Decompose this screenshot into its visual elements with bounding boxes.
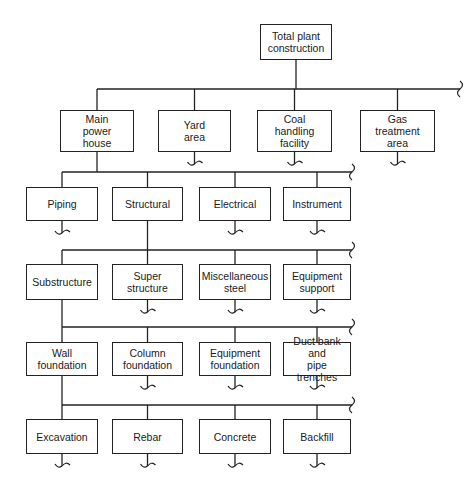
node-label-line: Column [123, 347, 172, 359]
node-label-line: Gas [375, 113, 419, 125]
node-label-line: foundation [37, 359, 86, 371]
node-label-line: house [83, 137, 112, 149]
node-label: Yardarea [184, 119, 205, 143]
node-label: Coalhandlingfacility [275, 113, 315, 149]
wbs-node-excavation: Excavation [26, 419, 98, 454]
wbs-node-backfill: Backfill [283, 419, 351, 454]
node-label-line: support [292, 282, 342, 294]
node-label: Total plantconstruction [268, 30, 325, 54]
node-label-line: pipe trenches [286, 359, 348, 383]
node-label-line: Concrete [214, 431, 257, 443]
node-label-line: Rebar [133, 431, 162, 443]
wbs-node-super-structure: Superstructure [112, 264, 183, 300]
node-label-line: Main [83, 113, 112, 125]
node-label-line: Miscellaneous [202, 270, 269, 282]
wbs-node-equipment-support: Equipmentsupport [283, 264, 351, 300]
node-label-line: foundation [123, 359, 172, 371]
node-label-line: Duct bank and [286, 335, 348, 359]
node-label-line: Super [127, 270, 168, 282]
wbs-node-total: Total plantconstruction [260, 24, 332, 60]
node-label: Mainpowerhouse [83, 113, 112, 149]
node-label: Equipmentsupport [292, 270, 342, 294]
node-label: Excavation [36, 431, 87, 443]
node-label: Wallfoundation [37, 347, 86, 371]
node-label-line: Equipment [292, 270, 342, 282]
node-label-line: structure [127, 282, 168, 294]
node-label-line: area [184, 131, 205, 143]
node-label: Piping [47, 198, 76, 210]
node-label-line: handling [275, 125, 315, 137]
wbs-node-equipment-foundation: Equipmentfoundation [199, 342, 271, 376]
node-label-line: treatment [375, 125, 419, 137]
wbs-node-main-power-house: Mainpowerhouse [60, 110, 134, 152]
node-label: Substructure [32, 276, 92, 288]
wbs-node-coal-handling-facility: Coalhandlingfacility [257, 110, 332, 152]
node-label-line: Wall [37, 347, 86, 359]
node-label-line: Equipment [210, 347, 260, 359]
node-label: Gastreatmentarea [375, 113, 419, 149]
node-label: Instrument [292, 198, 342, 210]
wbs-node-miscellaneous-steel: Miscellaneoussteel [199, 264, 271, 300]
node-label-line: Piping [47, 198, 76, 210]
node-label-line: Yard [184, 119, 205, 131]
node-label: Equipmentfoundation [210, 347, 260, 371]
wbs-node-concrete: Concrete [199, 419, 271, 454]
node-label-line: steel [202, 282, 269, 294]
wbs-node-gas-treatment-area: Gastreatmentarea [360, 110, 435, 152]
node-label-line: Backfill [300, 431, 333, 443]
node-label: Rebar [133, 431, 162, 443]
node-label-line: Excavation [36, 431, 87, 443]
node-label: Miscellaneoussteel [202, 270, 269, 294]
node-label: Superstructure [127, 270, 168, 294]
node-label-line: Instrument [292, 198, 342, 210]
node-label: Electrical [214, 198, 257, 210]
node-label-line: area [375, 137, 419, 149]
node-label-line: facility [275, 137, 315, 149]
wbs-node-substructure: Substructure [26, 264, 98, 300]
node-label: Backfill [300, 431, 333, 443]
node-label-line: Electrical [214, 198, 257, 210]
wbs-node-instrument: Instrument [283, 187, 351, 221]
node-label-line: power [83, 125, 112, 137]
node-label-line: foundation [210, 359, 260, 371]
wbs-node-wall-foundation: Wallfoundation [26, 342, 98, 376]
node-label: Structural [125, 198, 170, 210]
node-label-line: Total plant [268, 30, 325, 42]
node-label-line: construction [268, 42, 325, 54]
node-label: Concrete [214, 431, 257, 443]
node-label: Columnfoundation [123, 347, 172, 371]
wbs-node-column-foundation: Columnfoundation [112, 342, 183, 376]
wbs-node-electrical: Electrical [199, 187, 271, 221]
wbs-node-structural: Structural [112, 187, 183, 221]
wbs-node-duct-bank-pipe-trenches: Duct bank andpipe trenches [283, 342, 351, 376]
node-label: Duct bank andpipe trenches [286, 335, 348, 383]
node-label-line: Substructure [32, 276, 92, 288]
wbs-node-rebar: Rebar [112, 419, 183, 454]
wbs-node-piping: Piping [26, 187, 98, 221]
node-label-line: Structural [125, 198, 170, 210]
node-label-line: Coal [275, 113, 315, 125]
wbs-node-yard-area: Yardarea [158, 110, 231, 152]
